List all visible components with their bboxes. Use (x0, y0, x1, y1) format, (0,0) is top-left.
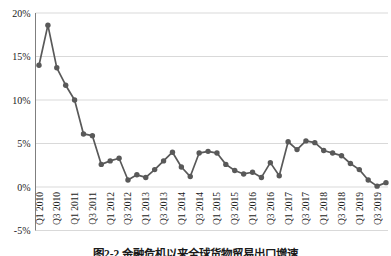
data-point (277, 173, 282, 178)
data-point (357, 167, 362, 172)
x-axis-tick-label: Q1 2019 (355, 192, 365, 225)
data-line (39, 25, 386, 186)
data-point (63, 83, 68, 88)
data-point (294, 147, 299, 152)
data-point (214, 150, 219, 155)
data-point (223, 162, 228, 167)
x-axis-tick-label: Q1 2014 (177, 192, 187, 225)
x-axis-tick-label: Q1 2018 (319, 192, 329, 225)
data-point (134, 172, 139, 177)
x-axis-tick-label: Q3 2015 (230, 192, 240, 225)
data-point (312, 140, 317, 145)
data-point (383, 180, 388, 185)
data-point (268, 160, 273, 165)
data-point (259, 175, 264, 180)
data-point (179, 164, 184, 169)
y-axis-tick-label: 20% (12, 8, 30, 19)
x-axis-tick-label: Q1 2015 (212, 192, 222, 225)
data-point (170, 150, 175, 155)
figure-caption: 图2-2 金融危机以来全球货物贸易出口增速 (0, 245, 391, 256)
x-axis-tick-label: Q1 2010 (35, 192, 45, 225)
y-axis-tick-label: 0% (17, 182, 30, 193)
data-point (205, 149, 210, 154)
x-axis-tick-label: Q1 2013 (141, 192, 151, 225)
x-axis-tick-label: Q3 2010 (52, 192, 62, 225)
data-point (303, 138, 308, 143)
x-axis-tick-label: Q3 2014 (195, 192, 205, 225)
data-point (339, 153, 344, 158)
data-point (152, 167, 157, 172)
data-point (54, 65, 59, 70)
data-point (72, 97, 77, 102)
x-axis-tick-label: Q3 2013 (159, 192, 169, 225)
data-point (330, 150, 335, 155)
y-axis-tick-label: 15% (12, 51, 30, 62)
data-point (90, 133, 95, 138)
data-point (45, 22, 50, 27)
data-point (36, 62, 41, 67)
x-axis-tick-label: Q1 2017 (284, 192, 294, 225)
data-point (81, 131, 86, 136)
x-axis-tick-label: Q3 2018 (337, 192, 347, 225)
data-point (116, 156, 121, 161)
x-axis-tick-label: Q3 2019 (373, 192, 383, 225)
x-axis-tick-label: Q3 2012 (123, 192, 133, 225)
x-axis-tick-label: Q3 2016 (266, 192, 276, 225)
data-point (188, 174, 193, 179)
data-point (285, 139, 290, 144)
data-point (366, 177, 371, 182)
x-axis-tick-label: Q3 2017 (301, 192, 311, 225)
line-chart: 20%15%10%5%0%-5%Q1 2010Q3 2010Q1 2011Q3 … (0, 0, 391, 256)
data-point (143, 175, 148, 180)
data-point (250, 170, 255, 175)
x-axis-tick-label: Q3 2011 (88, 192, 98, 225)
data-point (196, 150, 201, 155)
data-point (99, 162, 104, 167)
x-axis-tick-label: Q1 2011 (70, 192, 80, 225)
data-point (125, 177, 130, 182)
data-point (161, 158, 166, 163)
data-point (241, 171, 246, 176)
data-point (374, 183, 379, 188)
data-point (107, 158, 112, 163)
data-point (348, 161, 353, 166)
y-axis-tick-label: -5% (14, 225, 31, 236)
x-axis-tick-label: Q1 2016 (248, 192, 258, 225)
y-axis-tick-label: 5% (17, 138, 30, 149)
data-point (321, 148, 326, 153)
y-axis-tick-label: 10% (12, 95, 30, 106)
chart-figure: 20%15%10%5%0%-5%Q1 2010Q3 2010Q1 2011Q3 … (0, 0, 391, 256)
x-axis-tick-label: Q1 2012 (106, 192, 116, 225)
data-point (232, 168, 237, 173)
